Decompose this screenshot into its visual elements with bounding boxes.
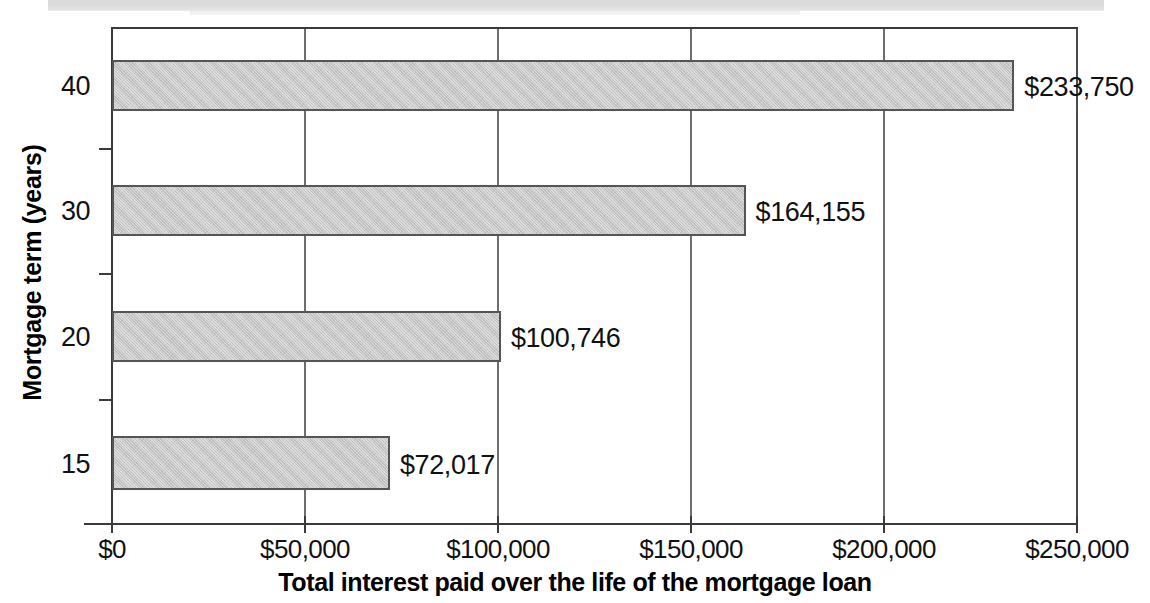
x-axis-title: Total interest paid over the life of the… bbox=[0, 568, 1150, 597]
x-tick-100000 bbox=[497, 516, 499, 533]
bar-chart-figure: $233,750 $164,155 $100,746 $72,017 40 30… bbox=[0, 0, 1150, 603]
y-tick-minor-1 bbox=[99, 148, 113, 150]
x-ticklabel-150000: $150,000 bbox=[601, 534, 781, 565]
y-axis-title: Mortgage term (years) bbox=[18, 53, 47, 493]
x-axis-line bbox=[84, 523, 1078, 525]
bar-30[interactable] bbox=[112, 185, 746, 236]
y-tick-minor-2 bbox=[99, 273, 113, 275]
x-ticklabel-250000: $250,000 bbox=[987, 534, 1150, 565]
bar-15[interactable] bbox=[112, 436, 390, 490]
y-tick-minor-3 bbox=[99, 399, 113, 401]
x-tick-150000 bbox=[690, 516, 692, 533]
bar-40[interactable] bbox=[112, 60, 1014, 111]
x-tick-200000 bbox=[883, 516, 885, 533]
x-tick-250000 bbox=[1076, 516, 1078, 533]
x-ticklabel-100000: $100,000 bbox=[408, 534, 588, 565]
x-ticklabel-200000: $200,000 bbox=[794, 534, 974, 565]
x-ticklabel-0: $0 bbox=[72, 534, 152, 565]
bar-label-40: $233,750 bbox=[1024, 72, 1133, 103]
x-tick-50000 bbox=[304, 516, 306, 533]
bar-20[interactable] bbox=[112, 311, 501, 362]
bar-label-15: $72,017 bbox=[400, 450, 495, 481]
x-ticklabel-50000: $50,000 bbox=[225, 534, 385, 565]
x-tick-0 bbox=[111, 516, 113, 533]
bar-label-30: $164,155 bbox=[756, 197, 865, 228]
bar-label-20: $100,746 bbox=[511, 323, 620, 354]
plot-top-border bbox=[112, 27, 1078, 29]
